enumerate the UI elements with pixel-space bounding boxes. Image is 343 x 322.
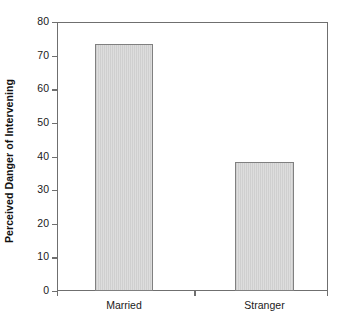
x-axis-category-label: Married (106, 299, 142, 311)
y-axis-tick: 40 (0, 157, 57, 158)
y-tick-label: 40 (37, 150, 49, 162)
y-tick-label: 70 (37, 49, 49, 61)
y-axis-tick: 20 (0, 224, 57, 225)
x-axis-category-label: Stranger (244, 299, 284, 311)
y-tick-mark (52, 56, 57, 57)
y-tick-label: 10 (37, 250, 49, 262)
y-axis-tick: 80 (0, 22, 57, 23)
y-tick-label: 80 (37, 15, 49, 27)
y-tick-mark (52, 89, 57, 90)
x-axis-start-tick (57, 291, 58, 296)
y-axis-tick: 0 (0, 291, 57, 292)
x-axis-center-tick (194, 291, 195, 296)
y-axis-tick: 50 (0, 123, 57, 124)
y-tick-mark (52, 224, 57, 225)
bar-chart: Perceived Danger of Intervening 01020304… (0, 0, 343, 322)
y-tick-label: 60 (37, 82, 49, 94)
y-tick-mark (52, 157, 57, 158)
bar (95, 44, 153, 291)
y-tick-mark (52, 190, 57, 191)
y-tick-label: 50 (37, 116, 49, 128)
y-tick-label: 0 (43, 284, 49, 296)
y-tick-label: 20 (37, 217, 49, 229)
y-axis-tick: 60 (0, 89, 57, 90)
y-axis-tick: 70 (0, 56, 57, 57)
y-axis-title: Perceived Danger of Intervening (0, 0, 18, 322)
y-tick-mark (52, 123, 57, 124)
y-tick-mark (52, 257, 57, 258)
y-axis-tick: 10 (0, 257, 57, 258)
bar (235, 162, 294, 291)
y-tick-label: 30 (37, 183, 49, 195)
y-tick-mark (52, 22, 57, 23)
x-axis-end-tick (327, 291, 328, 296)
y-axis-tick: 30 (0, 190, 57, 191)
